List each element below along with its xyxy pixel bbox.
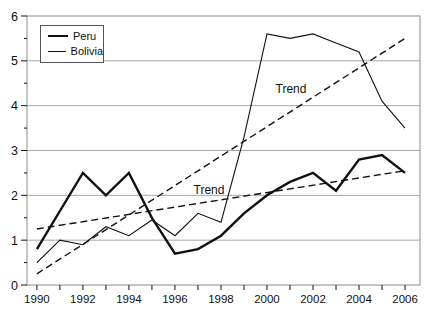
y-tick-label-6: 6 <box>11 10 18 24</box>
x-tick-label-2004: 2004 <box>346 293 372 305</box>
trend-label-peru: Trend <box>194 183 225 197</box>
y-tick-label-0: 0 <box>11 279 18 293</box>
x-tick-label-2006: 2006 <box>392 293 418 305</box>
legend-label-bolivia: Bolivia <box>71 46 103 57</box>
x-tick-label-1992: 1992 <box>70 293 96 305</box>
legend: Peru Bolivia <box>40 25 104 63</box>
bolivia-line-swatch-icon <box>48 51 66 52</box>
legend-item-peru: Peru <box>48 31 103 42</box>
x-tick-label-1996: 1996 <box>162 293 188 305</box>
legend-item-bolivia: Bolivia <box>48 46 103 57</box>
line-chart: 0123456199019921994199619982000200220042… <box>0 0 425 314</box>
y-tick-label-5: 5 <box>11 54 18 68</box>
y-tick-label-2: 2 <box>11 189 18 203</box>
y-tick-label-1: 1 <box>11 234 18 248</box>
peru-line-swatch-icon <box>48 35 68 37</box>
legend-label-peru: Peru <box>73 31 96 42</box>
x-tick-label-1998: 1998 <box>208 293 234 305</box>
x-tick-label-1990: 1990 <box>24 293 50 305</box>
trend-label-bolivia: Trend <box>276 82 307 96</box>
y-tick-label-4: 4 <box>11 99 18 113</box>
x-tick-label-2000: 2000 <box>254 293 280 305</box>
y-tick-label-3: 3 <box>11 144 18 158</box>
x-tick-label-2002: 2002 <box>300 293 326 305</box>
x-tick-label-1994: 1994 <box>116 293 142 305</box>
